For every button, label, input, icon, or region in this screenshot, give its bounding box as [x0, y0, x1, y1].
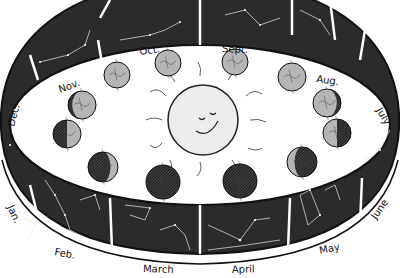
orbit-diagram: Oct.Sept.Nov.Aug.Dec.JulyJan.Feb.MarchAp…: [0, 0, 400, 278]
month-label-april: April: [232, 263, 255, 275]
month-label-feb: Feb.: [54, 246, 76, 260]
month-label-sept: Sept.: [222, 43, 248, 55]
month-label-jan: Jan.: [5, 202, 23, 224]
sun-disc: [168, 85, 238, 155]
month-label-march: March: [143, 263, 174, 275]
